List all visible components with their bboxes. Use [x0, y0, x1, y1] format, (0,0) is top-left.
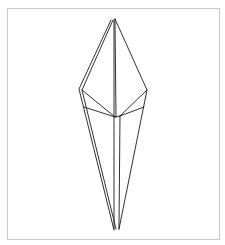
origami-crane-base-diagram [0, 0, 225, 245]
center-line-mid [115, 19, 116, 117]
right-flap-lower [120, 107, 144, 116]
left-inner-edge [82, 20, 116, 229]
left-flap-upper [82, 90, 115, 117]
center-line-right [119, 116, 120, 229]
